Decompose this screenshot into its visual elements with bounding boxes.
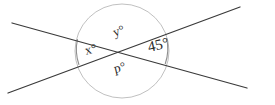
arc-highlight-left: [76, 39, 79, 65]
ascending-line: [8, 7, 240, 93]
geometry-figure: x° y° 45° p°: [0, 0, 275, 105]
figure-canvas: [0, 0, 275, 105]
